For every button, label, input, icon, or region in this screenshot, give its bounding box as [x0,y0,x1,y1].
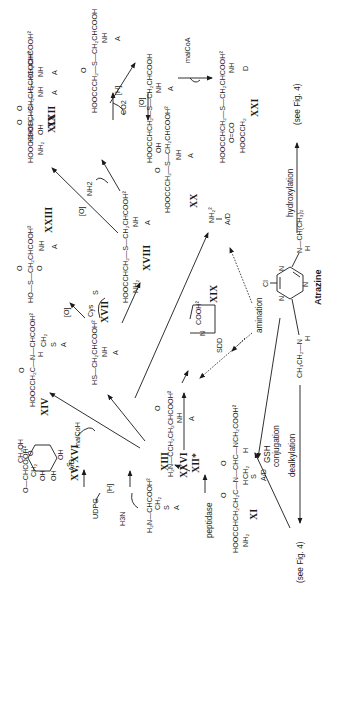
amination-label: amination [255,297,264,333]
see-fig4-bottom: (see Fig. 4) [296,541,305,583]
svg-text:NH₂: NH₂ [36,142,45,155]
svg-text:H: H [241,448,250,453]
svg-text:O: O [219,460,228,466]
svg-text:NH: NH [131,217,140,227]
svg-text:NH: NH [174,150,183,160]
svg-text:A: A [111,350,120,355]
svg-text:OH: OH [56,449,65,460]
svg-text:HOOCCHCH₂CH₂C—N—CHC—NCH₂COOH²: HOOCCHCH₂CH₂C—N—CHC—NCH₂COOH² [231,404,240,553]
dealkylation-label: dealkylation [288,433,297,477]
svg-text:A/D: A/D [223,213,232,225]
Cys-label: Cys [86,304,95,317]
svg-text:A/D: A/D [259,469,268,481]
svg-text:CH₂: CH₂ [39,334,48,347]
compound-XII-label: XII* [190,453,201,473]
svg-text:A: A [186,153,195,158]
svg-text:XI: XI [248,509,259,520]
svg-text:OH: OH [36,124,45,135]
svg-text:NH: NH [37,241,46,251]
svg-text:A: A [143,220,152,225]
svg-text:HOOCCHCH₂—S—CH₂CHCOOH²: HOOCCHCH₂—S—CH₂CHCOOH² [26,31,35,143]
svg-text:O: O [153,167,162,173]
svg-text:COOH²: COOH² [194,300,203,325]
svg-text:XXII: XXII [46,106,57,128]
svg-text:XXIII: XXIII [43,207,54,233]
svg-text:H: H [241,480,250,485]
svg-text:NH: NH [154,83,163,93]
svg-text:HOOCCHCH₂—S—CH₂CHCOOH: HOOCCHCH₂—S—CH₂CHCOOH [145,54,154,163]
svg-text:D: D [241,66,250,71]
malCoH-label: malCoH [73,422,82,448]
svg-text:XVII: XVII [99,301,110,323]
O-label-2: [O] [77,206,86,216]
svg-text:HOOCCH₂C—N—CHCOOH²: HOOCCH₂C—N—CHCOOH² [28,313,37,407]
svg-text:O=CO: O=CO [227,122,236,143]
O-label-1: [O] [62,307,71,317]
svg-text:XIX: XIX [208,284,219,303]
svg-text:OH: OH [49,470,58,481]
svg-text:S: S [162,505,171,510]
H3N-label: H3N [118,512,127,526]
svg-text:HS—CH₂CHCOOH²: HS—CH₂CHCOOH² [90,320,99,385]
svg-text:HOOCCHCH₂—S—CH₂CHCOOH²: HOOCCHCH₂—S—CH₂CHCOOH² [218,51,227,163]
svg-text:A: A [50,70,59,75]
H-label-2: [H] [105,484,114,493]
svg-text:H: H [303,336,312,341]
svg-text:NH: NH [175,413,184,423]
H-label-1: [H] [113,86,122,95]
svg-text:NH₂²: NH₂² [207,207,216,223]
svg-text:N: N [277,296,286,301]
conjugation-label: conjugation [272,425,281,467]
svg-text:HOOCCH₂: HOOCCH₂ [238,118,247,153]
gsh-label: GSH [263,445,272,463]
svg-text:A: A [59,342,68,347]
svg-text:OH: OH [38,470,47,481]
svg-text:HO—S—CH₂CHCOOH²: HO—S—CH₂CHCOOH² [26,225,35,303]
svg-text:O: O [17,367,26,373]
svg-text:NH₂: NH₂ [241,534,250,547]
svg-text:A: A [172,505,181,510]
svg-text:H: H [303,246,312,251]
svg-text:XIII: XIII [159,452,170,471]
svg-text:H: H [36,352,45,357]
svg-text:O: O [15,119,24,125]
NH2-label: NH2 [85,182,94,196]
svg-text:A: A [166,86,175,91]
svg-text:A: A [50,244,59,249]
svg-text:OH: OH [154,142,163,153]
svg-text:A: A [113,36,122,41]
svg-text:CH₃CH₂—N: CH₃CH₂—N [295,339,304,378]
svg-text:NH: NH [227,63,236,73]
svg-text:HOOCCCH₂—S—CH₂CHCOOH²: HOOCCCH₂—S—CH₂CHCOOH² [163,106,172,213]
svg-text:O: O [219,492,228,498]
atrazine-label: Atrazine [313,269,323,305]
svg-text:A: A [50,90,59,95]
UDPG-label: UDPG [91,498,100,519]
svg-text:O: O [35,265,44,271]
svg-text:S: S [249,474,258,479]
svg-text:NH: NH [100,347,109,357]
svg-text:XX: XX [188,193,199,208]
S-label: S [91,290,100,295]
svg-text:CH₂: CH₂ [29,464,38,477]
svg-text:NH₂: NH₂ [131,280,140,293]
svg-text:XV, XVI: XV, XVI [69,444,80,481]
svg-text:A: A [187,416,196,421]
svg-text:S: S [49,342,58,347]
malCoA-label: malCoA [183,37,192,63]
svg-text:XXI: XXI [249,99,260,117]
svg-text:O: O [79,67,88,73]
svg-text:N: N [277,266,286,271]
svg-text:N: N [301,282,310,287]
peptidase-label: peptidase [205,502,214,538]
hydroxylation-label: hydroxylation [286,168,295,217]
svg-text:Cl: Cl [261,280,270,287]
svg-text:O: O [153,405,162,411]
svg-text:XXVI: XXVI [178,452,189,478]
svg-text:NH: NH [36,87,45,97]
svg-text:CH₂: CH₂ [153,497,162,510]
atrazine-pathway-diagram: N N N Cl CH₃CH₂—N H N—CH(CH₃)₂ H Atrazin… [0,0,337,703]
svg-text:N: N [198,331,207,336]
svg-text:XVIII: XVIII [141,245,152,271]
see-fig4-top: (see Fig. 4) [293,83,302,125]
